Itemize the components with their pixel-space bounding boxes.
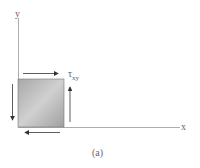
stress-element — [18, 79, 64, 127]
x-axis-label: x — [181, 122, 186, 132]
figure-caption: (a) — [92, 148, 103, 158]
shear-stress-label: τxy — [68, 69, 79, 82]
y-axis-label: y — [15, 9, 20, 19]
diagram-canvas — [0, 0, 200, 168]
